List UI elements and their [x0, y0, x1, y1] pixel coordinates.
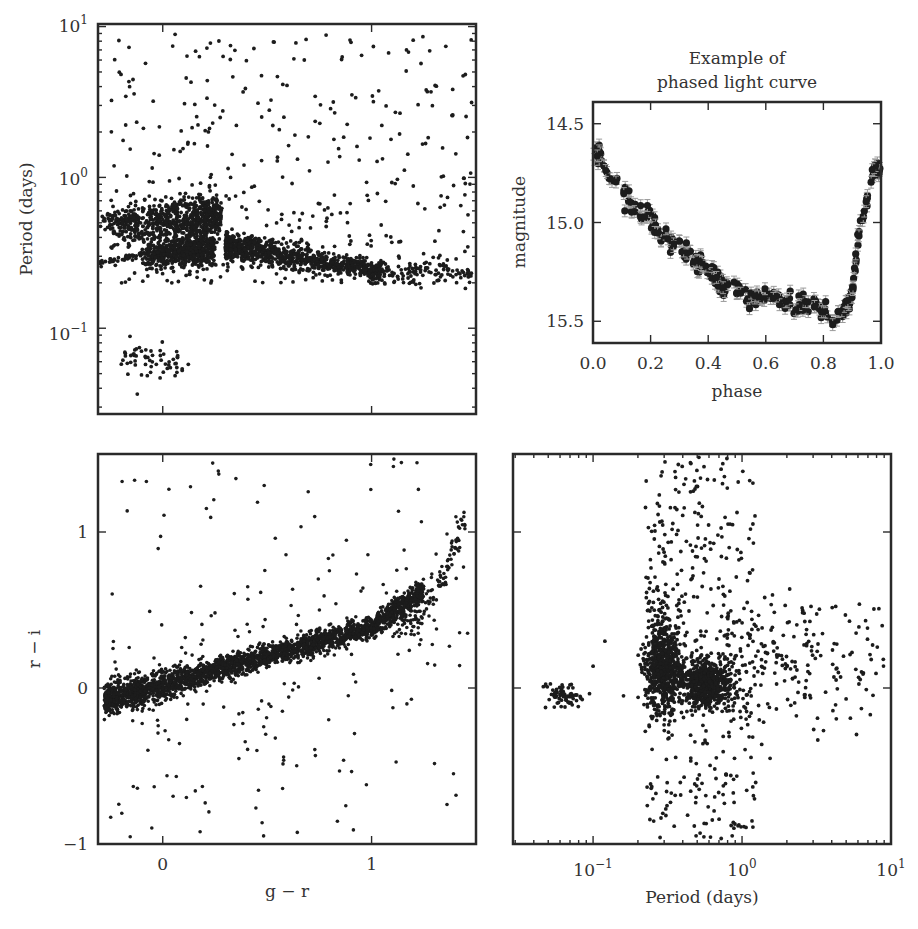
xtick-label-10: 101	[876, 857, 905, 880]
ytick-label-1: 100	[59, 166, 88, 189]
svg-text:0.2: 0.2	[637, 353, 664, 373]
panel-ri-vs-gr: 01−101 g − r r − i	[24, 454, 476, 901]
chart-title-line2: phased light curve	[657, 72, 817, 92]
ytick-label: −1	[63, 834, 88, 854]
xtick-label-0.1: 10−1	[573, 857, 612, 880]
xtick-label: 0	[157, 854, 168, 874]
y-axis-label: Period (days)	[16, 162, 36, 275]
ytick-label-10: 101	[59, 13, 88, 36]
figure: 101 100 10−1 Period (days) Example of ph…	[0, 0, 918, 929]
x-axis-label: g − r	[265, 881, 310, 901]
scatter-points	[98, 32, 473, 396]
svg-text:15.5: 15.5	[546, 311, 584, 331]
x-axis-label: Period (days)	[645, 887, 758, 907]
ytick-label: 1	[77, 522, 88, 542]
y-axis-label: r − i	[24, 629, 44, 668]
scatter-points	[541, 455, 885, 840]
svg-text:1.0: 1.0	[867, 353, 894, 373]
scatter-points	[103, 457, 470, 838]
x-axis-label: phase	[712, 381, 763, 401]
panel-phased-light-curve: Example of phased light curve 0.00.20.40…	[509, 48, 895, 401]
xtick-label: 1	[366, 854, 377, 874]
chart-title-line1: Example of	[689, 48, 787, 68]
svg-text:0.0: 0.0	[579, 353, 606, 373]
svg-text:0.4: 0.4	[695, 353, 722, 373]
ytick-label-0.1: 10−1	[49, 321, 88, 344]
svg-text:0.8: 0.8	[810, 353, 837, 373]
panel-period-vs-gr: 101 100 10−1 Period (days)	[16, 13, 476, 414]
svg-text:0.6: 0.6	[752, 353, 779, 373]
y-axis-label: magnitude	[509, 176, 529, 268]
ytick-label: 0	[77, 678, 88, 698]
panel-ri-vs-period: 10−1 100 101 Period (days)	[513, 454, 906, 907]
svg-text:15.0: 15.0	[546, 213, 584, 233]
xtick-label-1: 100	[727, 857, 756, 880]
light-curve-points	[590, 139, 883, 330]
svg-text:14.5: 14.5	[546, 114, 584, 134]
